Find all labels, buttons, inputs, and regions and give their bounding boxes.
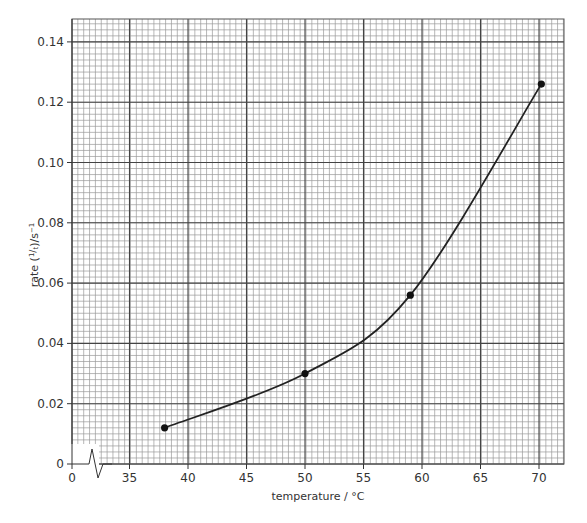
y-tick-label: 0.12 bbox=[37, 95, 64, 109]
x-tick-label: 65 bbox=[473, 471, 488, 485]
y-tick-label: 0.06 bbox=[37, 276, 64, 290]
x-tick-label: 40 bbox=[180, 471, 195, 485]
data-point bbox=[301, 370, 308, 377]
x-tick-label: 55 bbox=[356, 471, 371, 485]
y-axis-ticks: 00.020.040.060.080.100.120.14 bbox=[37, 35, 72, 471]
data-point bbox=[407, 292, 414, 299]
y-tick-label: 0 bbox=[56, 457, 64, 471]
y-tick-label: 0.02 bbox=[37, 397, 64, 411]
axes bbox=[71, 19, 112, 478]
x-tick-label: 60 bbox=[414, 471, 429, 485]
svg-text:rate (1/t)/s−1: rate (1/t)/s−1 bbox=[28, 223, 41, 287]
x-tick-label: 45 bbox=[239, 471, 254, 485]
x-tick-label: 50 bbox=[297, 471, 312, 485]
graph-paper-grid bbox=[72, 19, 564, 464]
x-axis-title: temperature / °C bbox=[271, 490, 364, 503]
data-point bbox=[161, 424, 168, 431]
y-axis-title: rate (1/t)/s−1 bbox=[28, 223, 41, 287]
chart: 00.020.040.060.080.100.120.14 0354045505… bbox=[0, 0, 587, 523]
y-tick-label: 0.04 bbox=[37, 336, 64, 350]
y-tick-label: 0.08 bbox=[37, 216, 64, 230]
x-tick-label: 35 bbox=[122, 471, 137, 485]
y-tick-label: 0.10 bbox=[37, 156, 64, 170]
data-point bbox=[538, 81, 545, 88]
y-tick-label: 0.14 bbox=[37, 35, 64, 49]
x-tick-label: 0 bbox=[68, 471, 76, 485]
x-tick-label: 70 bbox=[531, 471, 546, 485]
x-axis-ticks: 03540455055606570 bbox=[68, 464, 546, 485]
